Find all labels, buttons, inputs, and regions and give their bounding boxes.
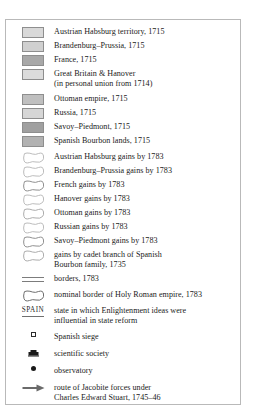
legend-entry-spanish-bourbon-lands-1715: Spanish Bourbon lands, 1715: [6, 135, 242, 148]
legend-label-line1: borders, 1783: [54, 274, 99, 283]
legend-entry-label: gains by cadet branch of Spanish Bourbon…: [54, 249, 238, 271]
legend-label-line1: Austrian Habsburg gains by 1783: [54, 152, 164, 161]
legend-label-line1: nominal border of Holy Roman empire, 178…: [54, 290, 202, 299]
legend-entry-cadet-branch-spanish-bourbon-gains-1735: gains by cadet branch of Spanish Bourbon…: [6, 249, 242, 271]
legend-label-line1: route of Jacobite forces under: [54, 383, 238, 393]
legend-entry-label: Ottoman empire, 1715: [54, 93, 238, 104]
legend-entry-label: route of Jacobite forces under Charles E…: [54, 382, 238, 404]
legend-entry-austrian-habsburg-territory-1715: Austrian Habsburg territory, 1715: [6, 26, 242, 39]
legend-entry-brandenburg-prussia-1715: Brandenburg–Prussia, 1715: [6, 40, 242, 53]
legend-entry-observatory: observatory: [6, 365, 242, 378]
legend-entry-label: Spanish Bourbon lands, 1715: [54, 135, 238, 146]
spain-state-label-icon: SPAIN: [12, 305, 54, 317]
legend-entry-label: Russian gains by 1783: [54, 221, 238, 232]
gains-outline-icon: [12, 221, 54, 234]
legend-entry-label: Brandenburg–Prussia gains by 1783: [54, 165, 238, 176]
area-swatch-icon: [12, 68, 54, 80]
area-swatch-icon: [12, 40, 54, 52]
legend-label-line2: Bourbon family, 1735: [54, 260, 238, 270]
legend-label-line1: Hanover gains by 1783: [54, 194, 130, 203]
legend-label-line1: Spanish Bourbon lands, 1715: [54, 136, 150, 145]
legend-entry-jacobite-route: route of Jacobite forces under Charles E…: [6, 382, 242, 404]
area-swatch-icon: [12, 26, 54, 38]
legend-entry-france-1715: France, 1715: [6, 54, 242, 67]
legend-entry-label: Savoy–Piedmont, 1715: [54, 121, 238, 132]
legend-label-line1: Russia, 1715: [54, 108, 96, 117]
legend-label-line1: Ottoman empire, 1715: [54, 94, 128, 103]
siege-square-icon: [12, 331, 54, 337]
legend-entry-ottoman-gains-1783: Ottoman gains by 1783: [6, 207, 242, 220]
gains-outline-icon: [12, 193, 54, 206]
border-line-icon: [12, 273, 54, 285]
legend-entry-brandenburg-prussia-gains-1783: Brandenburg–Prussia gains by 1783: [6, 165, 242, 178]
legend-entry-label: Spanish siege: [54, 331, 238, 342]
legend-entry-label: nominal border of Holy Roman empire, 178…: [54, 289, 238, 300]
legend-label-line1: France, 1715: [54, 55, 97, 64]
legend-frame: Austrian Habsburg territory, 1715 Brande…: [5, 19, 241, 405]
legend-label-line2: influential in state reform: [54, 316, 238, 326]
legend-entry-label: Austrian Habsburg territory, 1715: [54, 26, 238, 37]
legend-entry-label: state in which Enlightenment ideas were …: [54, 305, 238, 327]
area-swatch-icon: [12, 107, 54, 119]
legend-entry-label: French gains by 1783: [54, 179, 238, 190]
legend-entry-label: Hanover gains by 1783: [54, 193, 238, 204]
legend-entry-spanish-siege: Spanish siege: [6, 331, 242, 344]
legend-entry-label: observatory: [54, 365, 238, 376]
arrow-right-icon: [12, 382, 54, 393]
legend-label-line1: scientific society: [54, 349, 109, 358]
legend-label-line1: gains by cadet branch of Spanish: [54, 250, 238, 260]
gains-outline-icon: [12, 235, 54, 248]
legend-entry-scientific-society: scientific society: [6, 348, 242, 361]
legend-entry-label: Austrian Habsburg gains by 1783: [54, 151, 238, 162]
legend-entry-label: Great Britain & Hanover (in personal uni…: [54, 68, 238, 90]
legend-entry-french-gains-1783: French gains by 1783: [6, 179, 242, 192]
holy-roman-empire-outline-icon: [12, 289, 54, 302]
legend-label-line1: observatory: [54, 366, 93, 375]
legend-entry-savoy-piedmont-1715: Savoy–Piedmont, 1715: [6, 121, 242, 134]
legend-label-line1: Savoy–Piedmont, 1715: [54, 122, 130, 131]
legend-entry-ottoman-empire-1715: Ottoman empire, 1715: [6, 93, 242, 106]
spain-sample-text: SPAIN: [22, 306, 44, 317]
scientific-society-icon: [12, 348, 54, 357]
legend-label-line1: Spanish siege: [54, 332, 99, 341]
legend-entry-label: Russia, 1715: [54, 107, 238, 118]
legend-label-line1: Russian gains by 1783: [54, 222, 128, 231]
legend-entry-label: France, 1715: [54, 54, 238, 65]
legend-label-line1: Brandenburg–Prussia, 1715: [54, 41, 145, 50]
legend-entry-russia-1715: Russia, 1715: [6, 107, 242, 120]
legend-label-line2: (in personal union from 1714): [54, 79, 238, 89]
gains-outline-icon: [12, 249, 54, 262]
gains-outline-icon: [12, 179, 54, 192]
legend-entry-label: scientific society: [54, 348, 238, 359]
observatory-dot-icon: [12, 365, 54, 371]
legend-label-line1: Ottoman gains by 1783: [54, 208, 130, 217]
area-swatch-icon: [12, 54, 54, 66]
area-swatch-icon: [12, 135, 54, 147]
legend-entry-savoy-piedmont-gains-1783: Savoy–Piedmont gains by 1783: [6, 235, 242, 248]
legend-label-line1: Brandenburg–Prussia gains by 1783: [54, 166, 172, 175]
gains-outline-icon: [12, 165, 54, 178]
legend-label-line2: Charles Edward Stuart, 1745–46: [54, 393, 238, 403]
legend-label-line1: Austrian Habsburg territory, 1715: [54, 27, 164, 36]
legend-label-line1: state in which Enlightenment ideas were: [54, 306, 238, 316]
legend-entry-label: Brandenburg–Prussia, 1715: [54, 40, 238, 51]
legend-entry-borders-1783: borders, 1783: [6, 273, 242, 286]
legend-entry-label: Savoy–Piedmont gains by 1783: [54, 235, 238, 246]
legend-entry-enlightenment-state-reform: SPAIN state in which Enlightenment ideas…: [6, 305, 242, 327]
legend-entry-label: borders, 1783: [54, 273, 238, 284]
legend-entry-hanover-gains-1783: Hanover gains by 1783: [6, 193, 242, 206]
gains-outline-icon: [12, 207, 54, 220]
legend-label-line1: French gains by 1783: [54, 180, 125, 189]
legend-entry-russian-gains-1783: Russian gains by 1783: [6, 221, 242, 234]
legend-list: Austrian Habsburg territory, 1715 Brande…: [6, 20, 242, 404]
legend-entry-austrian-habsburg-gains-1783: Austrian Habsburg gains by 1783: [6, 151, 242, 164]
legend-label-line1: Great Britain & Hanover: [54, 69, 238, 79]
gains-outline-icon: [12, 151, 54, 164]
area-swatch-icon: [12, 121, 54, 133]
legend-label-line1: Savoy–Piedmont gains by 1783: [54, 236, 158, 245]
area-swatch-icon: [12, 93, 54, 105]
legend-entry-label: Ottoman gains by 1783: [54, 207, 238, 218]
legend-entry-nominal-border-holy-roman-empire-1783: nominal border of Holy Roman empire, 178…: [6, 289, 242, 302]
legend-entry-great-britain-hanover-1715: Great Britain & Hanover (in personal uni…: [6, 68, 242, 90]
